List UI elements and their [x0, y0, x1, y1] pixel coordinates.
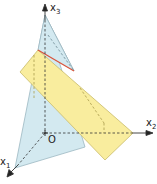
- axis-label-x1: x1: [0, 157, 10, 170]
- axis-label-x3: x3: [50, 3, 60, 16]
- diagram: x3 x2 x1 O: [0, 0, 157, 184]
- origin-label: O: [48, 135, 56, 145]
- axis-label-x2: x2: [146, 118, 156, 131]
- coordinate-diagram: [0, 0, 157, 184]
